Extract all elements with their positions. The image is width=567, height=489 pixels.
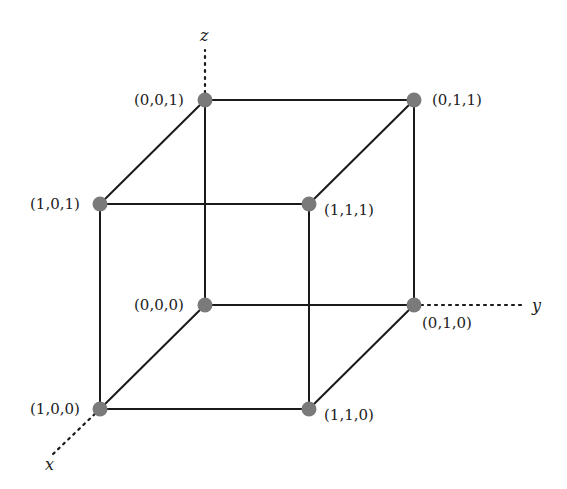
axes: [52, 50, 525, 455]
vertex-v010: [407, 298, 422, 313]
edge-v010-v110: [309, 305, 414, 409]
vertex-label-v110: (1,1,0): [324, 406, 374, 424]
vertex-label-v010: (0,1,0): [422, 314, 472, 332]
vertex-v111: [302, 197, 317, 212]
cube-diagram: xyz(0,0,1)(0,1,1)(1,0,1)(1,1,1)(0,0,0)(0…: [0, 0, 567, 489]
vertex-label-v001: (0,0,1): [134, 91, 184, 109]
vertex-label-v011: (0,1,1): [432, 91, 482, 109]
vertex-v101: [93, 197, 108, 212]
vertex-label-v000: (0,0,0): [134, 296, 184, 314]
vertex-label-v100: (1,0,0): [30, 400, 80, 418]
vertex-v110: [302, 402, 317, 417]
vertex-label-v101: (1,0,1): [30, 195, 80, 213]
vertex-v100: [93, 402, 108, 417]
vertex-v000: [198, 298, 213, 313]
vertex-v001: [198, 93, 213, 108]
axis-x-label: x: [45, 455, 54, 474]
vertex-label-v111: (1,1,1): [324, 201, 374, 219]
axis-z-label: z: [199, 26, 209, 45]
edge-v011-v111: [309, 100, 414, 204]
vertex-v011: [407, 93, 422, 108]
cube-edges: [100, 100, 414, 409]
edge-v001-v101: [100, 100, 205, 204]
axis-y-label: y: [531, 296, 542, 315]
edge-v000-v100: [100, 305, 205, 409]
